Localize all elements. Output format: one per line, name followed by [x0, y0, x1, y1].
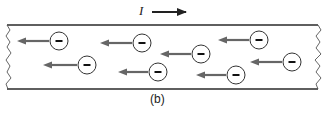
- electron-group: [17, 31, 301, 84]
- electron: [17, 32, 68, 50]
- arrow-head-icon: [17, 38, 26, 45]
- arrow-head-icon: [196, 72, 205, 79]
- current-label: I: [139, 3, 143, 19]
- wire-right-break: [315, 25, 321, 89]
- electron: [218, 31, 268, 49]
- arrow-head-icon: [43, 62, 52, 69]
- electron: [160, 45, 210, 63]
- arrow-head-icon: [100, 40, 109, 47]
- electron: [100, 34, 151, 52]
- arrow-head-icon: [118, 69, 127, 76]
- electron: [118, 63, 167, 81]
- electron: [250, 53, 301, 71]
- arrow-head-icon: [218, 37, 227, 44]
- wire-left-break: [6, 25, 11, 89]
- arrow-head-icon: [160, 51, 169, 58]
- arrow-head-icon: [250, 59, 259, 66]
- electron: [43, 56, 96, 74]
- electron: [196, 66, 245, 84]
- figure-caption: (b): [150, 92, 165, 106]
